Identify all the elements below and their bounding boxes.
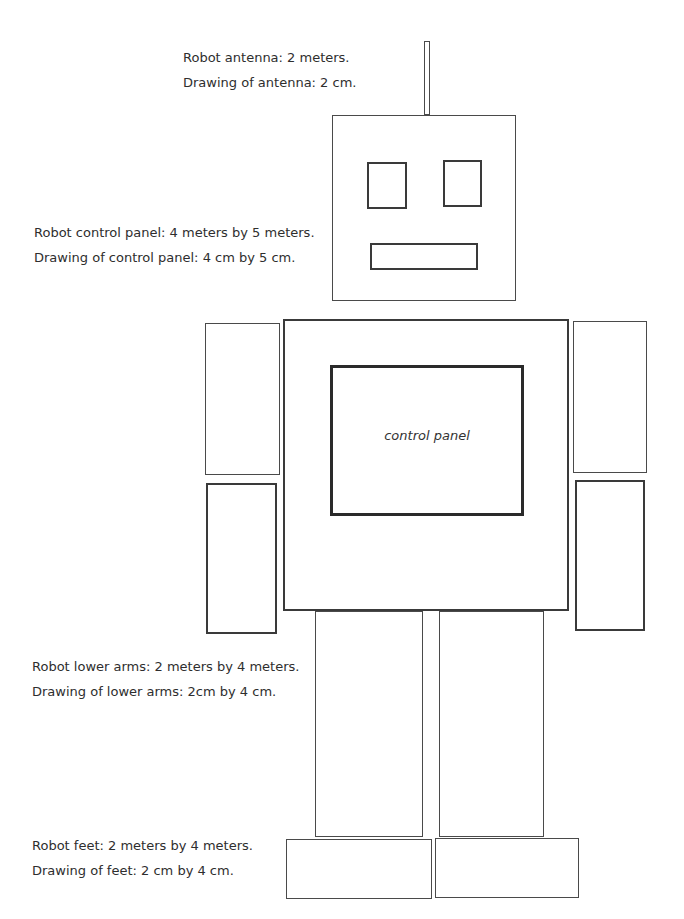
robot-foot-left bbox=[286, 839, 432, 899]
feet-label: Robot feet: 2 meters by 4 meters. Drawin… bbox=[32, 835, 253, 885]
control-panel-text: control panel bbox=[333, 428, 521, 443]
robot-mouth bbox=[370, 243, 478, 270]
robot-eye-left bbox=[367, 162, 407, 209]
lower-arms-robot-size: Robot lower arms: 2 meters by 4 meters. bbox=[32, 656, 299, 681]
robot-upper-arm-left bbox=[205, 323, 280, 475]
robot-lower-arm-left bbox=[206, 483, 277, 634]
robot-control-panel: control panel bbox=[330, 365, 524, 516]
robot-eye-right bbox=[443, 160, 482, 207]
lower-arms-drawing-size: Drawing of lower arms: 2cm by 4 cm. bbox=[32, 681, 299, 706]
feet-drawing-size: Drawing of feet: 2 cm by 4 cm. bbox=[32, 860, 253, 885]
robot-upper-arm-right bbox=[573, 321, 647, 473]
control-panel-robot-size: Robot control panel: 4 meters by 5 meter… bbox=[34, 222, 315, 247]
antenna-label: Robot antenna: 2 meters. Drawing of ante… bbox=[183, 47, 356, 97]
robot-head bbox=[332, 115, 516, 301]
antenna-robot-size: Robot antenna: 2 meters. bbox=[183, 47, 356, 72]
robot-leg-right bbox=[439, 611, 544, 837]
robot-lower-arm-right bbox=[575, 480, 645, 631]
robot-leg-left bbox=[315, 611, 423, 837]
control-panel-label: Robot control panel: 4 meters by 5 meter… bbox=[34, 222, 315, 272]
control-panel-drawing-size: Drawing of control panel: 4 cm by 5 cm. bbox=[34, 247, 315, 272]
feet-robot-size: Robot feet: 2 meters by 4 meters. bbox=[32, 835, 253, 860]
robot-foot-right bbox=[435, 838, 579, 898]
antenna-drawing-size: Drawing of antenna: 2 cm. bbox=[183, 72, 356, 97]
lower-arms-label: Robot lower arms: 2 meters by 4 meters. … bbox=[32, 656, 299, 706]
robot-antenna bbox=[424, 41, 430, 115]
